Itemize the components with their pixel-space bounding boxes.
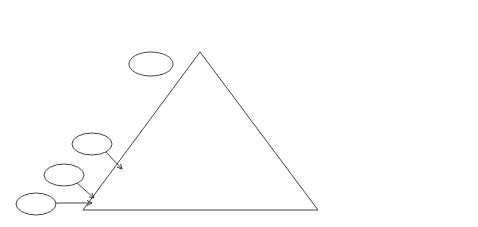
diagram-canvas <box>0 0 478 227</box>
input-u2 <box>0 0 94 198</box>
input-u3 <box>0 0 122 169</box>
input-un1 <box>0 0 199 95</box>
